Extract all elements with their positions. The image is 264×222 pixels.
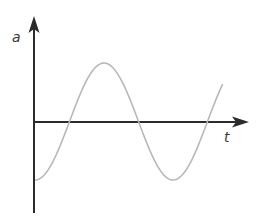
y-axis-label: a bbox=[12, 29, 21, 45]
acceleration-time-graph: a t bbox=[0, 0, 264, 222]
x-axis-label: t bbox=[224, 129, 230, 145]
